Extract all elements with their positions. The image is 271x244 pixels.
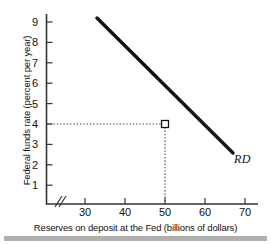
x-axis-title: Reserves on deposit at the Fed (billions… [0, 222, 271, 233]
x-tick-label-30: 30 [72, 206, 98, 218]
reserve-demand-curve [97, 18, 233, 153]
y-axis-ticks [47, 22, 53, 185]
x-tick-label-70: 70 [232, 206, 258, 218]
axis-break-icon [55, 196, 66, 207]
page-footer-rule [4, 236, 267, 241]
x-tick-label-40: 40 [112, 206, 138, 218]
x-tick-label-50: 50 [152, 206, 178, 218]
x-tick-label-60: 60 [192, 206, 218, 218]
y-axis-title: Federal funds rate (percent per year) [21, 16, 32, 206]
equilibrium-point-marker [162, 121, 169, 128]
curve-label-rd: RD [234, 152, 251, 167]
chart-figure: 9 8 7 6 5 4 3 2 1 30 40 50 60 70 Federal… [0, 0, 271, 244]
axes [46, 14, 258, 205]
